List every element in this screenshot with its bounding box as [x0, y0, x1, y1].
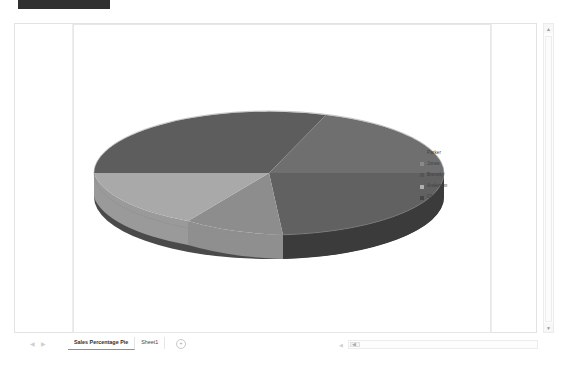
legend-item-anderson[interactable]: Anderson: [420, 184, 482, 189]
vertical-scrollbar-thumb[interactable]: [545, 36, 552, 322]
horizontal-scrollbar[interactable]: ◀: [348, 340, 538, 349]
legend-swatch-icon: [420, 173, 424, 177]
sheet-tabs[interactable]: Sales Percentage Pie Sheet1: [68, 337, 165, 350]
vertical-scrollbar[interactable]: ▲ ▼: [543, 23, 554, 333]
legend-item-bronsky[interactable]: Bronsky: [420, 173, 482, 178]
tab-prev-arrow-icon[interactable]: ◀: [30, 341, 35, 347]
toolbar-strip: [18, 0, 110, 9]
legend-item-jones[interactable]: Jones: [420, 162, 482, 167]
add-sheet-button[interactable]: +: [176, 339, 186, 349]
legend-item-label: Anderson: [427, 184, 447, 189]
sheet-tab-sales-percentage-pie[interactable]: Sales Percentage Pie: [68, 337, 135, 350]
legend-swatch-icon: [420, 185, 424, 189]
legend-item-label: Parker: [427, 151, 441, 156]
chart-object[interactable]: Parker Jones Bronsky Anderson Chen: [73, 24, 491, 333]
sheet-tab-sheet1[interactable]: Sheet1: [135, 337, 165, 349]
pie-chart-plot-area[interactable]: [74, 25, 464, 334]
chart-legend[interactable]: Parker Jones Bronsky Anderson Chen: [420, 151, 482, 200]
legend-swatch-icon: [420, 162, 424, 166]
pie-chart-svg: [74, 25, 464, 334]
scroll-up-arrow-icon[interactable]: ▲: [544, 24, 553, 33]
legend-item-chen[interactable]: Chen: [420, 195, 482, 200]
tab-navigation[interactable]: ◀ ▶: [30, 341, 46, 347]
legend-swatch-icon: [420, 196, 424, 200]
horizontal-scroll-thumb-arrow-icon: ◀: [352, 342, 356, 348]
legend-item-parker[interactable]: Parker: [420, 151, 482, 156]
legend-swatch-icon: [420, 151, 424, 155]
scroll-down-arrow-icon[interactable]: ▼: [544, 323, 553, 332]
legend-item-label: Jones: [427, 162, 440, 167]
tab-next-arrow-icon[interactable]: ▶: [41, 341, 46, 347]
legend-item-label: Bronsky: [427, 173, 444, 178]
legend-item-label: Chen: [427, 195, 438, 200]
horizontal-scroll-left-arrow-icon[interactable]: ◀: [339, 342, 343, 348]
grid-column-divider: [491, 24, 492, 332]
worksheet-grid[interactable]: Parker Jones Bronsky Anderson Chen: [14, 23, 537, 333]
sheet-tab-bar: ◀ ▶ Sales Percentage Pie Sheet1 + ◀ ◀: [0, 336, 576, 358]
